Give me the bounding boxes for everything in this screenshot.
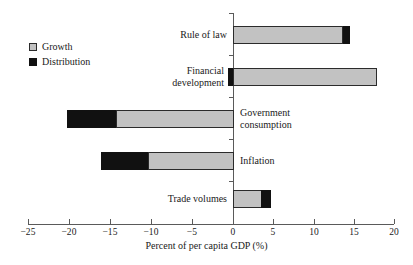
legend-item-distribution: Distribution — [29, 55, 90, 68]
bar-segment-distribution — [67, 110, 117, 128]
x-axis-tick-label: 5 — [253, 227, 293, 237]
x-axis-tick — [394, 219, 395, 224]
chart-legend: Growth Distribution — [29, 40, 90, 70]
x-axis-tick-label: −10 — [131, 227, 171, 237]
x-axis-tick-label: −20 — [49, 227, 89, 237]
bar-segment-distribution — [101, 152, 149, 170]
y-axis-tick — [229, 181, 234, 182]
bar-segment-growth — [233, 68, 377, 86]
x-axis-tick-label: −15 — [90, 227, 130, 237]
legend-swatch-distribution-icon — [29, 58, 37, 66]
legend-label-growth: Growth — [42, 41, 73, 52]
category-label-inflation: Inflation — [240, 155, 330, 167]
y-axis-tick — [229, 139, 234, 140]
x-axis-title: Percent of per capita GDP (%) — [0, 240, 413, 251]
legend-label-distribution: Distribution — [42, 56, 90, 67]
legend-item-growth: Growth — [29, 40, 90, 53]
x-axis-tick — [151, 219, 152, 224]
plot-area: Rule of law Financial development Govern… — [0, 0, 413, 265]
x-axis-tick — [192, 219, 193, 224]
y-axis-tick — [229, 97, 234, 98]
y-axis-tick — [229, 13, 234, 14]
bar-segment-growth — [233, 26, 343, 44]
x-axis-tick — [314, 219, 315, 224]
x-axis-tick-label: 15 — [334, 227, 374, 237]
category-label-financial-development: Financial development — [128, 65, 224, 88]
x-axis-tick — [273, 219, 274, 224]
x-axis-tick-label: 10 — [294, 227, 334, 237]
x-axis-tick — [354, 219, 355, 224]
bar-segment-distribution — [343, 26, 350, 44]
bar-segment-growth — [116, 110, 234, 128]
x-axis-tick — [233, 219, 234, 224]
category-label-rule-of-law: Rule of law — [133, 29, 227, 41]
x-axis-line — [28, 224, 394, 225]
x-axis-tick-label: 0 — [213, 227, 253, 237]
chart-figure: Rule of law Financial development Govern… — [0, 0, 413, 265]
legend-swatch-growth-icon — [29, 43, 37, 51]
x-axis-tick — [110, 219, 111, 224]
bar-segment-distribution — [261, 190, 271, 208]
x-axis-tick-label: −5 — [172, 227, 212, 237]
category-label-trade-volumes: Trade volumes — [127, 193, 227, 205]
bar-segment-growth — [148, 152, 234, 170]
x-axis-tick-label: 20 — [374, 227, 413, 237]
y-axis-tick — [229, 55, 234, 56]
x-axis-tick-label: −25 — [8, 227, 48, 237]
category-label-government-consumption: Government consumption — [240, 107, 350, 130]
bar-segment-growth — [233, 190, 262, 208]
x-axis-tick — [69, 219, 70, 224]
x-axis-tick — [28, 219, 29, 224]
